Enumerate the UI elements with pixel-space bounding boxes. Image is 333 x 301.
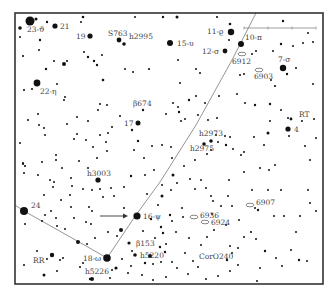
star-label: 4 (294, 125, 299, 134)
star-icon (210, 195, 212, 197)
star-icon (275, 257, 277, 259)
star-icon (144, 174, 146, 176)
star-icon (290, 249, 292, 251)
star-icon (199, 72, 201, 74)
star-icon (105, 141, 107, 143)
star-icon (165, 243, 167, 245)
star-icon (136, 121, 141, 126)
star-icon (232, 148, 234, 150)
star-icon (76, 116, 78, 118)
star-icon (49, 179, 51, 181)
star-icon (229, 270, 231, 272)
star-label: h3003 (87, 169, 111, 178)
star-icon (299, 215, 301, 217)
star-icon (183, 165, 185, 167)
star-icon (134, 16, 136, 18)
star-label: 21 (60, 22, 70, 31)
star-icon (23, 264, 25, 266)
star-icon (175, 231, 177, 233)
star-icon (114, 266, 117, 269)
star-icon (157, 204, 159, 206)
star-icon (31, 88, 33, 90)
star-icon (171, 220, 173, 222)
star-label: 12-σ (202, 47, 219, 56)
star-icon (133, 149, 135, 151)
star-icon (315, 137, 317, 139)
star-icon (133, 253, 137, 257)
star-icon (243, 236, 245, 238)
star-icon (204, 102, 206, 104)
star-icon (302, 42, 304, 44)
galaxy-label: 6907 (256, 198, 275, 207)
star-icon (73, 217, 75, 219)
star-icon (212, 200, 214, 202)
star-icon (66, 123, 68, 125)
star-icon (182, 216, 184, 218)
star-label: 10-π (245, 33, 262, 42)
star-icon (109, 277, 111, 279)
star-label: S763 (108, 29, 128, 38)
star-icon (251, 53, 253, 55)
star-icon (164, 251, 166, 253)
star-icon (254, 104, 256, 106)
star-icon (94, 237, 96, 239)
star-icon (127, 272, 129, 274)
star-icon (160, 226, 162, 228)
star-icon (177, 106, 179, 108)
star-icon (62, 257, 64, 259)
star-icon (131, 129, 133, 131)
star-icon (238, 41, 244, 47)
star-icon (107, 231, 109, 233)
star-icon (197, 266, 199, 268)
star-icon (133, 212, 140, 219)
star-icon (111, 269, 113, 271)
star-icon (34, 80, 41, 87)
star-icon (70, 206, 72, 208)
star-icon (89, 278, 91, 280)
star-h2975: h2975 (190, 142, 214, 153)
star-icon (239, 74, 241, 76)
star-icon (244, 102, 246, 104)
star-icon (146, 193, 148, 195)
star-icon (280, 65, 286, 71)
star-icon (159, 246, 161, 248)
star-icon (76, 133, 78, 135)
star-icon (113, 195, 115, 197)
star-label: RT (299, 110, 310, 119)
star-icon (22, 55, 24, 57)
star-icon (53, 181, 55, 183)
star-icon (255, 50, 257, 52)
galaxy-label: 6924 (211, 218, 230, 227)
star-icon (231, 205, 233, 207)
star-icon (283, 215, 285, 217)
star-label: RR (33, 256, 45, 265)
star-icon (165, 276, 167, 278)
star-icon (295, 67, 297, 69)
star-icon (50, 210, 52, 212)
star-icon (38, 124, 40, 126)
star-icon (218, 95, 220, 97)
star-icon (99, 134, 101, 136)
star-18-omega: 18-ω (83, 254, 111, 263)
star-icon (96, 64, 98, 66)
star-label: 23-ϑ (27, 25, 45, 34)
star-icon (123, 186, 125, 188)
star-icon (184, 118, 186, 120)
star-icon (207, 119, 209, 121)
star-icon (91, 189, 93, 191)
star-icon (85, 139, 87, 141)
star-icon (177, 59, 179, 61)
star-icon (38, 49, 40, 51)
star-label: 16-ψ (143, 212, 161, 221)
star-icon (257, 209, 259, 211)
star-icon (205, 278, 207, 280)
star-icon (259, 267, 261, 269)
star-icon (66, 60, 68, 62)
star-icon (269, 103, 271, 105)
star-icon (192, 260, 194, 262)
star-label: 7-σ (278, 55, 290, 64)
star-icon (122, 42, 126, 46)
star-icon (80, 21, 82, 23)
star-icon (195, 95, 197, 97)
star-icon (52, 186, 54, 188)
